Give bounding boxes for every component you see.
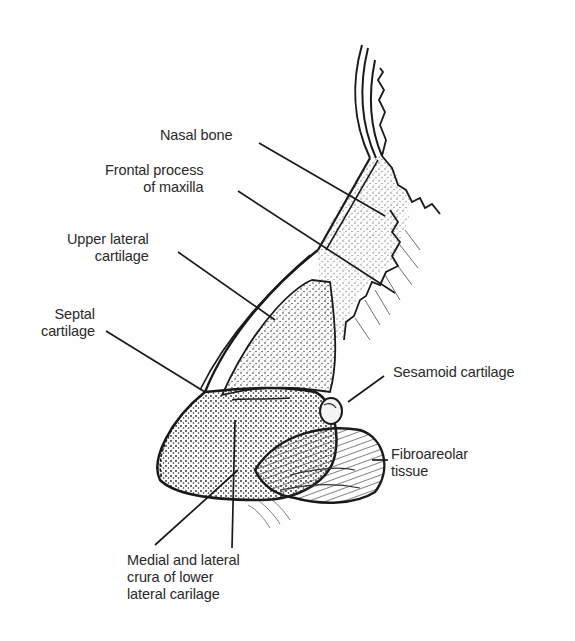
frontal-bone-outline — [355, 45, 386, 158]
leader-septal — [106, 331, 205, 392]
label-fibroareolar-tissue: Fibroareolar tissue — [391, 446, 468, 480]
leader-sesamoid — [348, 376, 384, 402]
label-frontal-process: Frontal process of maxilla — [105, 162, 203, 196]
leader-upper-lateral — [178, 252, 275, 320]
cheek-skin-hatching — [248, 497, 290, 528]
label-septal-cartilage: Septal cartilage — [41, 306, 95, 340]
anatomy-figure: Nasal bone Frontal process of maxilla Up… — [0, 0, 575, 641]
upper-lateral-cartilage-shape — [222, 280, 335, 395]
label-crura-lower-lateral-cartilage: Medial and lateral crura of lower latera… — [127, 552, 240, 603]
label-upper-lateral-cartilage: Upper lateral cartilage — [67, 231, 149, 265]
sesamoid-cartilage-shape — [320, 398, 342, 424]
label-nasal-bone: Nasal bone — [160, 127, 232, 144]
label-sesamoid-cartilage: Sesamoid cartilage — [393, 364, 515, 381]
